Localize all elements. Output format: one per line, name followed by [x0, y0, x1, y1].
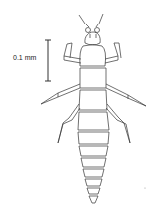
legs-front	[64, 43, 121, 63]
antennae	[79, 14, 103, 33]
abdomen	[78, 112, 109, 203]
larva-illustration	[0, 0, 156, 213]
head	[85, 32, 100, 45]
mesothorax	[80, 68, 106, 88]
legs-middle	[41, 84, 146, 106]
scale-bar	[45, 40, 51, 81]
prothorax	[80, 45, 106, 67]
metathorax	[79, 90, 107, 110]
